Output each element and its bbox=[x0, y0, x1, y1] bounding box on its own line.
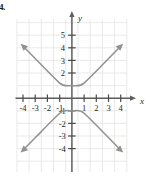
x-tick-label-3: 3 bbox=[106, 103, 110, 113]
x-tick-label--2: -2 bbox=[44, 103, 51, 113]
x-axis-arrow bbox=[130, 96, 136, 101]
y-tick-label--4: -4 bbox=[59, 144, 67, 154]
x-tick-label-2: 2 bbox=[94, 103, 98, 113]
hyperbola-graph-figure: -4 -3 -2 -1 1 2 3 4 5 4 3 2 -1 -2 -3 -4 … bbox=[0, 0, 156, 180]
y-axis-arrow bbox=[69, 11, 74, 17]
x-axis-label: x bbox=[139, 96, 144, 106]
x-tick-label--4: -4 bbox=[19, 103, 27, 113]
x-tick-label--3: -3 bbox=[32, 103, 39, 113]
y-tick-label-2: 2 bbox=[61, 68, 65, 78]
graph-canvas: -4 -3 -2 -1 1 2 3 4 5 4 3 2 -1 -2 -3 -4 … bbox=[0, 0, 156, 180]
y-axis-label: y bbox=[77, 13, 82, 23]
y-tick-label--2: -2 bbox=[59, 119, 66, 129]
x-tick-label-4: 4 bbox=[119, 103, 124, 113]
y-tick-label-3: 3 bbox=[61, 56, 65, 66]
y-tick-label-5: 5 bbox=[61, 30, 65, 40]
y-tick-label--3: -3 bbox=[59, 131, 66, 141]
